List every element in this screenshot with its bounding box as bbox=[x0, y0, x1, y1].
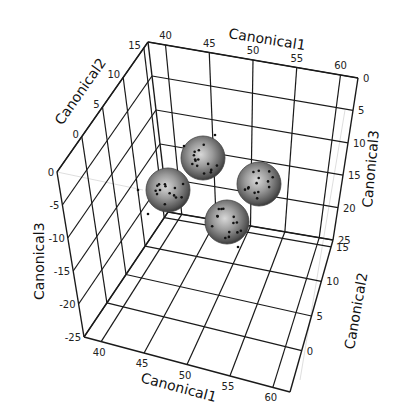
tick-label: 25 bbox=[338, 235, 351, 246]
tick-label: 5 bbox=[317, 311, 323, 322]
axis-title-canonical2-right: Canonical2 bbox=[341, 271, 370, 350]
data-point bbox=[253, 192, 256, 195]
data-point bbox=[173, 194, 176, 197]
grid-line bbox=[82, 137, 107, 303]
data-point bbox=[216, 164, 219, 167]
tick-label: 50 bbox=[247, 45, 260, 56]
tick-label: -10 bbox=[48, 233, 64, 244]
data-point bbox=[197, 158, 200, 161]
data-point bbox=[257, 191, 260, 194]
tick-label: 45 bbox=[136, 358, 149, 369]
cluster-sphere-4 bbox=[205, 200, 249, 244]
tick-label: 20 bbox=[343, 203, 356, 214]
grid-line bbox=[68, 110, 156, 238]
grid-line bbox=[103, 107, 127, 275]
axis-title-canonical3-left: Canonical3 bbox=[31, 222, 47, 300]
data-point bbox=[147, 213, 150, 216]
data-point bbox=[236, 221, 239, 224]
data-point bbox=[196, 165, 199, 168]
tick-label: 55 bbox=[222, 381, 235, 392]
tick-label: 0 bbox=[307, 346, 313, 357]
data-point bbox=[228, 236, 231, 239]
data-point bbox=[210, 171, 213, 174]
data-point bbox=[244, 188, 247, 191]
data-point bbox=[202, 143, 205, 146]
grid-line bbox=[107, 303, 302, 351]
data-point bbox=[180, 196, 183, 199]
data-point bbox=[222, 207, 225, 210]
data-point bbox=[257, 169, 260, 172]
tick-label: 15 bbox=[128, 40, 141, 51]
data-point bbox=[271, 176, 274, 179]
tick-label: -25 bbox=[65, 332, 81, 343]
data-point bbox=[159, 189, 162, 192]
data-point bbox=[164, 183, 167, 186]
data-point bbox=[210, 169, 213, 172]
cluster-sphere-3 bbox=[237, 162, 281, 206]
grid-line bbox=[209, 53, 216, 221]
data-point bbox=[214, 134, 217, 137]
data-point bbox=[257, 177, 260, 180]
grid-line bbox=[145, 246, 321, 281]
data-point bbox=[232, 222, 235, 225]
data-point bbox=[240, 229, 243, 232]
data-point bbox=[203, 172, 206, 175]
data-point bbox=[255, 182, 258, 185]
data-point bbox=[256, 197, 259, 200]
tick-label: 15 bbox=[348, 170, 361, 181]
tick-label: 55 bbox=[290, 53, 303, 64]
tick-label: 0 bbox=[72, 129, 78, 140]
tick-label: 10 bbox=[107, 69, 120, 80]
data-point bbox=[156, 193, 159, 196]
data-point bbox=[182, 183, 185, 186]
data-point bbox=[217, 208, 220, 211]
data-point bbox=[211, 225, 214, 228]
data-point bbox=[236, 231, 239, 234]
tick-label: 45 bbox=[203, 38, 216, 49]
data-point bbox=[228, 231, 231, 234]
cluster-sphere-1 bbox=[146, 168, 190, 212]
data-point bbox=[164, 203, 167, 206]
data-point bbox=[193, 154, 196, 157]
data-point bbox=[267, 180, 270, 183]
data-point bbox=[137, 189, 140, 192]
tick-label: 0 bbox=[48, 167, 54, 178]
data-point bbox=[175, 196, 178, 199]
3d-scatter-plot: 404550556040455055600510150510150-5-10-1… bbox=[0, 0, 400, 420]
tick-label: 5 bbox=[93, 99, 99, 110]
data-point bbox=[216, 215, 219, 218]
grid-line bbox=[285, 68, 297, 232]
grid-line bbox=[57, 172, 84, 337]
data-point bbox=[232, 216, 235, 219]
data-point bbox=[156, 184, 159, 187]
data-point bbox=[191, 163, 194, 166]
data-point bbox=[154, 189, 157, 192]
data-point bbox=[193, 150, 196, 153]
data-point bbox=[237, 246, 240, 249]
data-point bbox=[168, 192, 171, 195]
tick-label: 10 bbox=[326, 276, 339, 287]
tick-label: 5 bbox=[358, 105, 364, 116]
grid-line bbox=[126, 275, 312, 317]
axis-title-canonical2-left: Canonical2 bbox=[51, 55, 109, 128]
axis-title-canonical1-top: Canonical1 bbox=[228, 25, 307, 53]
data-point bbox=[224, 237, 227, 240]
tick-label: -5 bbox=[49, 200, 59, 211]
data-point bbox=[198, 149, 201, 152]
tick-label: 60 bbox=[264, 392, 277, 403]
data-point bbox=[247, 186, 250, 189]
tick-label: 0 bbox=[363, 73, 369, 84]
data-point bbox=[183, 145, 186, 148]
data-point bbox=[207, 163, 210, 166]
tick-label: -20 bbox=[59, 299, 75, 310]
tick-label: 60 bbox=[334, 60, 347, 71]
tick-label: 40 bbox=[159, 30, 172, 41]
tick-label: -15 bbox=[54, 266, 70, 277]
tick-label: 40 bbox=[93, 347, 106, 358]
data-point bbox=[268, 170, 271, 173]
data-point bbox=[174, 187, 177, 190]
data-point bbox=[252, 171, 255, 174]
data-point bbox=[268, 186, 271, 189]
data-point bbox=[194, 158, 197, 161]
